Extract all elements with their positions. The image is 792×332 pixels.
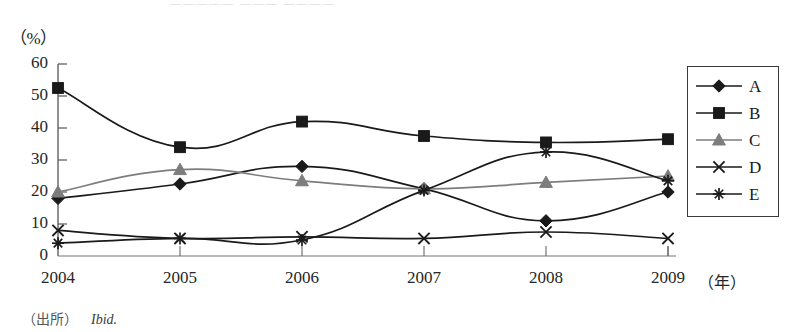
series-line-A: [58, 166, 668, 220]
series-point-B: [175, 142, 186, 153]
y-tick-label: 50: [14, 85, 48, 105]
legend-item-D[interactable]: D: [694, 156, 774, 178]
y-tick-label: 20: [14, 181, 48, 201]
series-point-E: [52, 237, 64, 249]
square-marker-icon: [53, 83, 64, 94]
legend-label-D: D: [749, 159, 761, 176]
series-point-A: [662, 186, 674, 198]
series-point-E: [418, 184, 430, 196]
series-point-B: [297, 116, 308, 127]
series-point-E: [296, 234, 308, 246]
square-marker-icon: [175, 142, 186, 153]
series-C: [52, 163, 675, 197]
square-marker-icon: [297, 116, 308, 127]
triangle-marker-icon: [694, 130, 744, 150]
series-point-A: [296, 160, 308, 172]
y-tick-label: 30: [14, 149, 48, 169]
y-tick-label: 10: [14, 213, 48, 233]
chart-figure: ————— ——— ———— （%） 0102030405060 2004200…: [0, 0, 792, 332]
x-tick-label: 2007: [394, 268, 454, 288]
legend-marker-E: [694, 184, 744, 204]
diamond-marker-icon: [662, 186, 674, 198]
series-line-D: [58, 230, 668, 238]
source-note: （出所）Ibid.: [22, 308, 117, 328]
x-tick-label: 2008: [516, 268, 576, 288]
y-tick-label: 40: [14, 117, 48, 137]
legend-marker-C: [694, 130, 744, 150]
legend-label-B: B: [749, 105, 760, 122]
y-tick-label: 60: [14, 53, 48, 73]
series-point-B: [53, 83, 64, 94]
legend-marker-B: [694, 103, 744, 123]
square-marker-icon: [694, 103, 744, 123]
series-A: [52, 160, 674, 227]
diamond-marker-icon: [296, 160, 308, 172]
series-point-B: [419, 131, 430, 142]
x-tick-label: 2004: [28, 268, 88, 288]
legend-item-C[interactable]: C: [694, 129, 774, 151]
cross-marker-icon: [694, 157, 744, 177]
series-point-E: [174, 232, 186, 244]
diamond-marker-icon: [713, 80, 725, 92]
x-tick-label: 2009: [638, 268, 698, 288]
square-marker-icon: [663, 134, 674, 145]
x-axis-unit-label: （年）: [698, 269, 746, 293]
series-point-E: [662, 175, 674, 187]
diamond-marker-icon: [713, 80, 725, 92]
square-marker-icon: [714, 108, 725, 119]
series-B: [53, 83, 674, 153]
series-E: [52, 146, 674, 249]
diamond-marker-icon: [540, 215, 552, 227]
series-point-A: [540, 215, 552, 227]
x-tick-label: 2006: [272, 268, 332, 288]
legend-item-B[interactable]: B: [694, 102, 774, 124]
square-marker-icon: [714, 108, 725, 119]
series-line-B: [58, 88, 668, 148]
legend-label-E: E: [749, 186, 759, 203]
legend-marker-A: [694, 76, 744, 96]
series-point-B: [663, 134, 674, 145]
legend-item-E[interactable]: E: [694, 183, 774, 205]
diamond-marker-icon: [694, 76, 744, 96]
series-point-E: [540, 146, 552, 158]
source-reference: Ibid.: [91, 312, 117, 327]
legend-marker-D: [694, 157, 744, 177]
legend-label-C: C: [749, 132, 760, 149]
series-point-A: [174, 178, 186, 190]
legend-label-A: A: [749, 78, 761, 95]
legend-item-A[interactable]: A: [694, 75, 774, 97]
y-tick-label: 0: [14, 245, 48, 265]
series-D: [52, 225, 673, 244]
asterisk-marker-icon: [713, 188, 725, 200]
series-line-E: [58, 152, 668, 244]
square-marker-icon: [419, 131, 430, 142]
source-prefix: （出所）: [22, 312, 78, 327]
x-tick-label: 2005: [150, 268, 210, 288]
asterisk-marker-icon: [694, 184, 744, 204]
chart-legend: ABCDE: [687, 66, 779, 217]
diamond-marker-icon: [174, 178, 186, 190]
